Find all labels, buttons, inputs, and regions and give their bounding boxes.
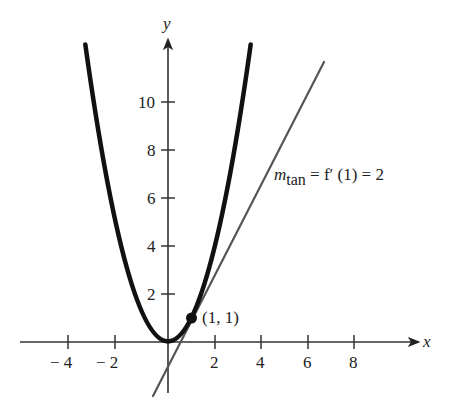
x-tick-label: − 2 bbox=[96, 353, 118, 372]
y-axis-label: y bbox=[161, 14, 171, 33]
x-axis-label: x bbox=[422, 332, 431, 351]
x-tick-label: 2 bbox=[210, 353, 219, 372]
x-tick-label: 4 bbox=[256, 353, 265, 372]
y-tick-label: 4 bbox=[147, 237, 156, 256]
y-tick-label: 2 bbox=[147, 285, 156, 304]
x-tick-label: − 4 bbox=[50, 353, 73, 372]
slope-equation: = f′ (1) = 2 bbox=[306, 165, 384, 184]
slope-subscript: tan bbox=[286, 171, 306, 188]
slope-annotation: mtan = f′ (1) = 2 bbox=[274, 165, 384, 188]
point-label: (1, 1) bbox=[202, 308, 239, 327]
y-tick-label: 10 bbox=[138, 93, 155, 112]
y-tick-label: 6 bbox=[147, 189, 156, 208]
x-tick-label: 8 bbox=[349, 353, 358, 372]
plot-canvas: − 4 − 2 2 4 6 8 2 4 6 8 10 x y (1, 1) mt… bbox=[0, 0, 450, 414]
y-tick-label: 8 bbox=[147, 141, 156, 160]
x-tick-label: 6 bbox=[303, 353, 312, 372]
tangent-point bbox=[186, 313, 197, 324]
slope-m: m bbox=[274, 165, 286, 184]
